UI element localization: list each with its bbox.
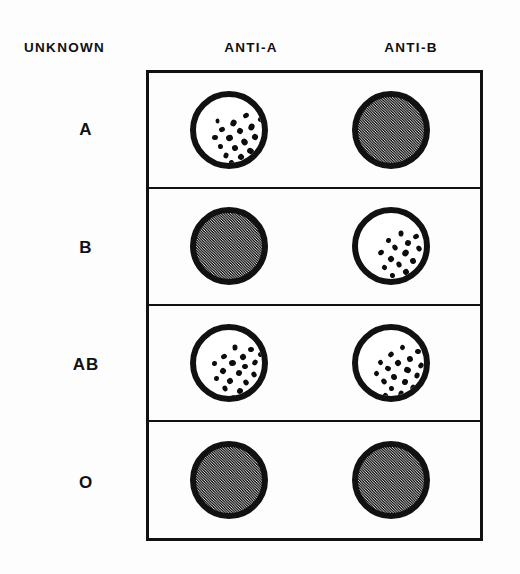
clump: [402, 268, 410, 276]
row-label-b: B: [30, 238, 142, 258]
clump: [247, 123, 255, 132]
clump: [229, 119, 238, 128]
clump: [212, 135, 218, 141]
well-b-anti-b: [352, 207, 430, 285]
clump: [242, 112, 250, 119]
clump: [387, 350, 395, 358]
clump: [380, 377, 388, 385]
clump: [257, 351, 264, 358]
clump: [407, 355, 414, 362]
table-row: [149, 422, 480, 538]
clump: [417, 361, 425, 369]
table-row: [149, 189, 480, 305]
clump: [424, 239, 430, 245]
clump: [417, 265, 424, 271]
clump: [258, 140, 265, 147]
clump: [250, 389, 257, 396]
clump: [387, 255, 395, 263]
clump: [423, 354, 430, 361]
clump: [239, 352, 247, 360]
clump: [241, 363, 248, 369]
clump: [401, 249, 410, 258]
clump: [231, 144, 239, 152]
clump: [240, 138, 249, 147]
clump: [214, 375, 219, 380]
agglutination-clumps: [196, 97, 262, 163]
clump: [409, 258, 416, 265]
clump: [398, 231, 403, 237]
clump: [399, 344, 406, 351]
clump: [256, 379, 263, 386]
clump: [254, 154, 260, 160]
clump: [226, 377, 234, 385]
clump: [220, 353, 227, 360]
clump: [414, 371, 421, 378]
clump: [381, 264, 388, 271]
clump: [225, 134, 233, 142]
clump: [219, 366, 227, 374]
column-header-unknown: UNKNOWN: [24, 40, 105, 55]
clump: [235, 369, 243, 377]
clump: [398, 278, 405, 285]
clump: [382, 392, 389, 399]
clump: [247, 346, 254, 352]
well-b-anti-a: [190, 207, 268, 285]
clump: [422, 252, 429, 259]
clump: [228, 159, 235, 166]
clump: [394, 358, 402, 366]
well-o-anti-a: [190, 441, 268, 519]
clump: [408, 395, 415, 401]
column-header-anti-b: ANTI-B: [356, 40, 466, 55]
clump: [391, 244, 399, 252]
clump: [242, 378, 250, 386]
clump: [389, 273, 395, 279]
row-label-a: A: [30, 120, 142, 140]
well-ab-anti-b: [352, 324, 430, 402]
agglutination-clumps: [358, 330, 424, 396]
clump: [237, 153, 245, 161]
clump: [250, 370, 257, 378]
clump: [245, 396, 251, 401]
clump: [415, 245, 423, 253]
agglutination-clumps: [196, 330, 262, 396]
clump: [257, 116, 264, 123]
clump: [395, 261, 402, 269]
clump: [263, 126, 268, 133]
clump: [236, 127, 244, 135]
clump: [377, 359, 384, 366]
clump: [412, 233, 420, 240]
clump: [412, 274, 418, 281]
table-row: [149, 73, 480, 189]
clump: [251, 358, 258, 366]
clump: [386, 238, 392, 244]
clump: [261, 366, 268, 373]
clump: [391, 373, 398, 380]
clump: [222, 384, 229, 391]
clump: [223, 152, 230, 159]
well-ab-anti-a: [190, 324, 268, 402]
well-o-anti-b: [352, 441, 430, 519]
row-label-o: O: [30, 473, 142, 493]
clump: [403, 365, 412, 373]
clump: [373, 370, 380, 377]
clump: [401, 378, 408, 385]
clump: [414, 348, 421, 354]
clump: [236, 387, 244, 395]
clump: [421, 386, 427, 391]
clump: [404, 240, 412, 248]
clump: [384, 365, 392, 372]
clump: [251, 133, 259, 141]
clump: [388, 385, 394, 391]
clump: [229, 359, 237, 366]
clump: [212, 360, 217, 365]
clump: [422, 374, 428, 380]
clump: [217, 144, 223, 150]
row-label-ab: AB: [30, 355, 142, 375]
column-header-anti-a: ANTI-A: [196, 40, 306, 55]
clump: [409, 383, 416, 391]
blood-typing-figure: UNKNOWN ANTI-A ANTI-B A B AB O: [0, 0, 520, 574]
clump: [377, 249, 385, 257]
clump: [244, 161, 252, 169]
table-row: [149, 306, 480, 422]
well-a-anti-a: [190, 91, 268, 169]
